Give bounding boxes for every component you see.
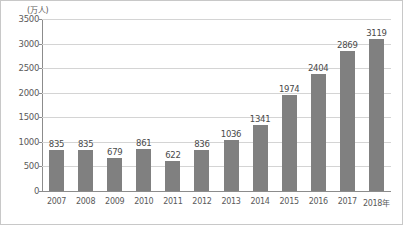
y-axis-tick-label: 2000 bbox=[1, 88, 39, 98]
bar-slot: 835 bbox=[42, 20, 71, 191]
x-axis-tick-label: 2017 bbox=[333, 197, 362, 208]
bar-slot: 1341 bbox=[246, 20, 275, 191]
bar: 835 bbox=[78, 150, 93, 191]
x-axis-tick-label: 2010 bbox=[129, 197, 158, 208]
bar-value-label: 622 bbox=[165, 150, 180, 160]
y-axis-tick-mark bbox=[39, 191, 42, 192]
bar-value-label: 861 bbox=[136, 138, 151, 148]
y-axis-tick-label: 1000 bbox=[1, 137, 39, 147]
y-axis-tick-label: 3500 bbox=[1, 14, 39, 24]
bar-value-label: 1974 bbox=[279, 84, 299, 94]
bar-slot: 679 bbox=[100, 20, 129, 191]
bar: 679 bbox=[107, 158, 122, 191]
x-axis-tick-label: 2014 bbox=[246, 197, 275, 208]
x-axis-tick-label: 2009 bbox=[100, 197, 129, 208]
x-axis-tick-label: 2016 bbox=[304, 197, 333, 208]
bar-slot: 836 bbox=[187, 20, 216, 191]
bar: 2869 bbox=[340, 51, 355, 191]
bar: 2404 bbox=[311, 74, 326, 191]
x-axis-tick-label: 2011 bbox=[158, 197, 187, 208]
y-axis-tick-label: 500 bbox=[1, 161, 39, 171]
bar: 836 bbox=[194, 150, 209, 191]
bar-slot: 622 bbox=[158, 20, 187, 191]
x-axis-line bbox=[42, 191, 391, 192]
x-axis-tick-label: 2007 bbox=[42, 197, 71, 208]
bar: 622 bbox=[165, 161, 180, 191]
x-axis-tick-label: 2018年 bbox=[362, 197, 391, 208]
bar-slot: 1974 bbox=[275, 20, 304, 191]
bar-slot: 835 bbox=[71, 20, 100, 191]
bar-value-label: 1341 bbox=[250, 114, 270, 124]
bar-slot: 2869 bbox=[333, 20, 362, 191]
bar-value-label: 679 bbox=[107, 147, 122, 157]
x-axis-tick-label: 2015 bbox=[275, 197, 304, 208]
bar-value-label: 2404 bbox=[308, 63, 328, 73]
x-axis-tick-label: 2013 bbox=[216, 197, 245, 208]
bar-slot: 861 bbox=[129, 20, 158, 191]
bar-slot: 2404 bbox=[304, 20, 333, 191]
bar-slot: 3119 bbox=[362, 20, 391, 191]
bar-value-label: 835 bbox=[78, 139, 93, 149]
bar: 835 bbox=[49, 150, 64, 191]
bar: 1341 bbox=[253, 125, 268, 191]
bar: 1036 bbox=[224, 140, 239, 191]
bar: 1974 bbox=[282, 95, 297, 191]
y-axis-tick-label: 0 bbox=[1, 186, 39, 196]
y-axis-tick-label: 3000 bbox=[1, 39, 39, 49]
bar: 3119 bbox=[369, 39, 384, 191]
bar-value-label: 835 bbox=[49, 139, 64, 149]
y-axis-tick-label: 1500 bbox=[1, 112, 39, 122]
x-axis-tick-label: 2012 bbox=[187, 197, 216, 208]
bar-chart: (万人) 83583567986162283610361341197424042… bbox=[0, 0, 403, 225]
x-axis-tick-label: 2008 bbox=[71, 197, 100, 208]
bar-value-label: 1036 bbox=[221, 129, 241, 139]
bar-value-label: 3119 bbox=[366, 28, 386, 38]
bar-value-label: 2869 bbox=[337, 40, 357, 50]
bar-series: 8358356798616228361036134119742404286931… bbox=[42, 20, 391, 191]
y-axis-tick-label: 2500 bbox=[1, 63, 39, 73]
plot-area: 8358356798616228361036134119742404286931… bbox=[42, 20, 391, 192]
bar-slot: 1036 bbox=[216, 20, 245, 191]
x-axis-tick-labels: 2007200820092010201120122013201420152016… bbox=[42, 197, 391, 208]
bar-value-label: 836 bbox=[194, 139, 209, 149]
bar: 861 bbox=[136, 149, 151, 191]
